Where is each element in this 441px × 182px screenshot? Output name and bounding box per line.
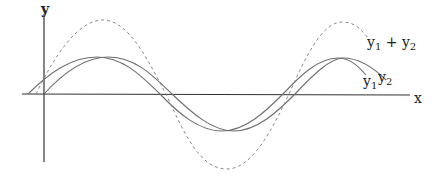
x-axis (22, 94, 410, 95)
y1-label: y1 (362, 73, 377, 91)
x-axis-label: x (414, 90, 422, 106)
y2-label: y2 (377, 69, 392, 87)
sum-label: y1 + y2 (366, 34, 416, 52)
y-axis-label: y (40, 1, 50, 17)
wave-superposition-diagram: y x y1 + y2 y1 y2 (0, 0, 441, 182)
